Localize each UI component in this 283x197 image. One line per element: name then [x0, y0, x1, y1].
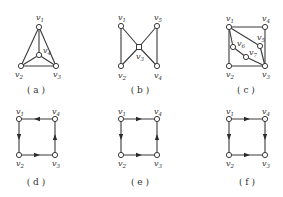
- vertex-label: v4: [262, 107, 271, 117]
- vertex-v1: [226, 116, 231, 121]
- vertex-v5: [154, 23, 159, 28]
- arrow-icon: [34, 153, 40, 157]
- vertex-v3: [262, 63, 267, 68]
- graph-c: v1v4v5v6v7v2v3( c ): [226, 14, 271, 95]
- vertex-label: v4: [43, 46, 52, 56]
- arrow-icon: [263, 134, 267, 140]
- vertex-label: v3: [52, 159, 61, 169]
- vertex-label: v1: [226, 107, 234, 117]
- vertex-v1: [118, 23, 123, 28]
- vertex-v2: [16, 152, 21, 157]
- graph-a: v1v2v3v4( a ): [15, 13, 62, 95]
- vertex-v4: [52, 116, 57, 121]
- graph-d: v1v4v2v3( d ): [16, 107, 61, 187]
- vertex-label: v4: [262, 14, 271, 24]
- vertex-v3: [53, 63, 58, 68]
- arrow-icon: [136, 153, 142, 157]
- vertex-label: v2: [118, 159, 127, 169]
- edge-v7-v3: [246, 57, 265, 66]
- vertex-label: v6: [237, 39, 246, 49]
- vertex-label: v3: [262, 159, 271, 169]
- vertex-v4: [262, 116, 267, 121]
- vertex-label: v2: [15, 70, 24, 80]
- caption-b: ( b ): [131, 85, 150, 95]
- graph-e: v1v4v2v3( e ): [118, 107, 163, 187]
- vertex-label: v2: [118, 71, 127, 81]
- graph-b: v1v5v3v2v4( b ): [118, 13, 163, 95]
- vertex-v4: [262, 24, 267, 29]
- vertex-v2: [226, 63, 231, 68]
- vertex-label: v1: [36, 13, 44, 23]
- arrow-icon: [119, 134, 123, 140]
- arrow-icon: [136, 117, 142, 121]
- caption-e: ( e ): [131, 177, 149, 187]
- vertex-label: v3: [154, 159, 163, 169]
- vertex-label: v3: [136, 52, 145, 62]
- vertex-v3: [137, 45, 142, 50]
- vertex-label: v4: [154, 71, 163, 81]
- caption-d: ( d ): [27, 177, 46, 187]
- edge-v5-v3: [139, 26, 157, 47]
- vertex-v4: [154, 116, 159, 121]
- vertex-v2: [226, 152, 231, 157]
- arrow-icon: [244, 153, 250, 157]
- vertex-v7: [243, 54, 248, 59]
- vertex-v4: [154, 63, 159, 68]
- arrow-icon: [227, 134, 231, 140]
- vertex-label: v5: [154, 13, 163, 23]
- vertex-v6: [230, 44, 235, 49]
- caption-f: ( f ): [239, 177, 255, 187]
- vertex-v3: [262, 152, 267, 157]
- arrow-icon: [17, 134, 21, 140]
- vertex-v2: [118, 63, 123, 68]
- vertex-label: v5: [257, 33, 266, 43]
- vertex-v1: [16, 116, 21, 121]
- graph-f: v1v4v2v3( f ): [226, 107, 271, 187]
- edge-v1-v3: [121, 26, 139, 47]
- vertex-label: v1: [16, 107, 24, 117]
- vertex-v5: [257, 43, 262, 48]
- vertex-label: v2: [226, 70, 235, 80]
- vertex-label: v2: [16, 159, 25, 169]
- vertex-label: v4: [52, 107, 61, 117]
- vertex-v2: [118, 152, 123, 157]
- vertex-v3: [52, 152, 57, 157]
- graph-figure: v1v2v3v4( a )v1v5v3v2v4( b )v1v4v5v6v7v2…: [0, 0, 283, 197]
- vertex-label: v2: [226, 159, 235, 169]
- vertex-label: v4: [154, 107, 163, 117]
- vertex-v1: [118, 116, 123, 121]
- arrow-icon: [244, 117, 250, 121]
- vertex-v2: [18, 63, 23, 68]
- vertex-label: v1: [118, 13, 126, 23]
- vertex-v3: [154, 152, 159, 157]
- vertex-label: v3: [53, 70, 62, 80]
- vertex-label: v1: [226, 14, 234, 24]
- vertex-v1: [226, 24, 231, 29]
- arrow-icon: [53, 134, 57, 140]
- arrow-icon: [34, 117, 40, 121]
- vertex-v4: [36, 52, 41, 57]
- vertex-v1: [36, 24, 41, 29]
- vertex-label: v7: [249, 48, 258, 58]
- caption-c: ( c ): [237, 85, 255, 95]
- vertex-label: v1: [118, 107, 126, 117]
- caption-a: ( a ): [27, 85, 45, 95]
- arrow-icon: [155, 134, 159, 140]
- vertex-label: v3: [262, 70, 271, 80]
